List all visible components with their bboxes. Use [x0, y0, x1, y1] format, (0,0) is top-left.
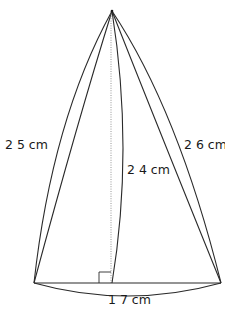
height-label: 2 4 cm	[127, 162, 170, 177]
base-label: 1 7 cm	[108, 292, 151, 307]
right-slant-label: 2 6 cm	[184, 137, 225, 152]
center-curved-edge	[112, 11, 123, 283]
apex-point	[111, 10, 114, 13]
left-slant-label: 2 5 cm	[5, 137, 48, 152]
cone-diagram: 2 5 cm 2 6 cm 2 4 cm 1 7 cm	[0, 0, 225, 315]
right-angle-marker	[99, 272, 111, 283]
